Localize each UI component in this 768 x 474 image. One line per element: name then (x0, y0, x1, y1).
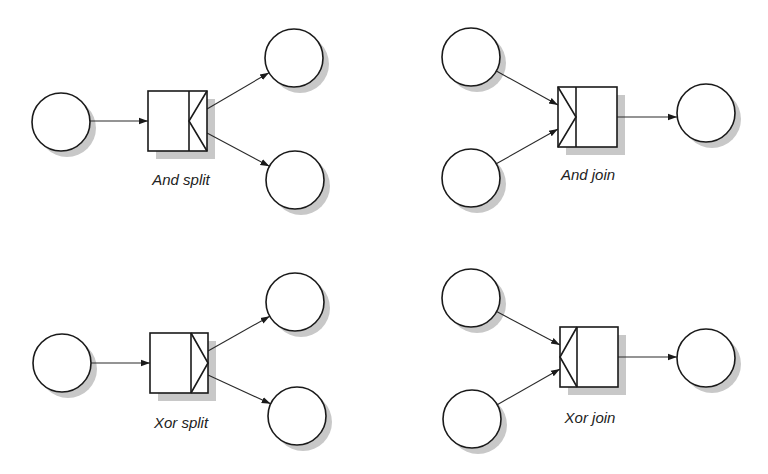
output-place[interactable] (266, 151, 324, 209)
xor-split-transition[interactable] (150, 333, 208, 393)
input-place[interactable] (443, 390, 501, 448)
arc-out (208, 316, 270, 351)
output-place[interactable] (677, 329, 735, 387)
input-place[interactable] (442, 149, 500, 207)
input-place[interactable] (442, 269, 500, 327)
and-join-transition[interactable] (558, 87, 617, 147)
nodes-layer (32, 28, 735, 448)
output-place[interactable] (265, 29, 323, 87)
and-split-transition[interactable] (148, 91, 207, 151)
arc-in (497, 369, 560, 405)
output-place[interactable] (677, 84, 735, 142)
output-place[interactable] (268, 387, 326, 445)
arc-in (497, 312, 560, 345)
arc-out (208, 375, 271, 404)
input-place[interactable] (33, 334, 91, 392)
arc-out (207, 73, 269, 109)
and-join-label: And join (560, 166, 615, 183)
xor-split-label: Xor split (153, 414, 209, 431)
shadows-layer (38, 34, 741, 454)
workflow-gates-diagram: And splitAnd joinXor splitXor join (0, 0, 768, 474)
arc-in (496, 71, 558, 105)
input-place[interactable] (32, 93, 90, 151)
labels-layer: And splitAnd joinXor splitXor join (151, 166, 615, 431)
xor-join-transition[interactable] (560, 327, 618, 387)
input-place[interactable] (442, 28, 500, 86)
xor-join-label: Xor join (564, 409, 616, 426)
and-split-label: And split (151, 171, 210, 188)
arc-in (496, 129, 558, 164)
output-place[interactable] (266, 273, 324, 331)
arc-out (207, 133, 269, 166)
